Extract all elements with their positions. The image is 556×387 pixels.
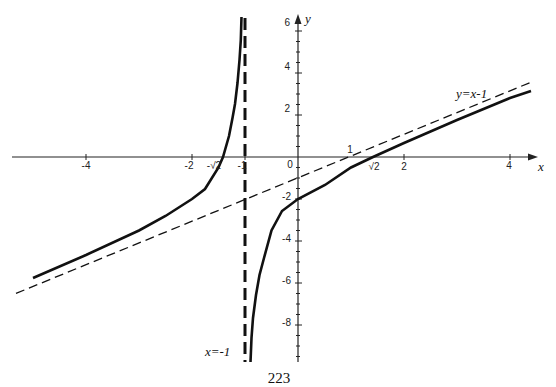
oblique-asymptote-label: y=x-1 bbox=[454, 86, 487, 101]
y-tick-label: 2 bbox=[284, 103, 290, 114]
y-tick-label: -2 bbox=[282, 191, 291, 202]
x-axis-label: x bbox=[537, 159, 544, 174]
y-tick-label: 6 bbox=[284, 17, 290, 28]
x-tick-label: √2 bbox=[368, 161, 379, 172]
y-axis-label: y bbox=[303, 11, 311, 26]
y-tick-label: -6 bbox=[282, 275, 291, 286]
x-tick-label: -1 bbox=[238, 160, 247, 171]
curve-left-branch bbox=[33, 17, 242, 278]
y-tick-label: -8 bbox=[282, 317, 291, 328]
curve-right-branch bbox=[251, 91, 532, 362]
x-tick-label: -4 bbox=[82, 160, 91, 171]
oblique-asymptote-line bbox=[16, 81, 533, 293]
function-graph: -4 -2 -√2 -1 0 1 √2 2 4 6 4 2 -2 -4 -6 -… bbox=[0, 0, 556, 387]
x-tick-label: 0 bbox=[287, 159, 293, 170]
x-axis-arrow-icon bbox=[528, 154, 538, 161]
y-tick-label: 4 bbox=[284, 61, 290, 72]
x-tick-label: 2 bbox=[401, 161, 407, 172]
x-tick-label: -2 bbox=[185, 160, 194, 171]
vertical-asymptote-label: x=-1 bbox=[204, 344, 230, 359]
page-number: 223 bbox=[268, 370, 291, 386]
x-tick-label: 1 bbox=[347, 144, 353, 155]
y-tick-label: -4 bbox=[282, 233, 291, 244]
x-tick-label: -√2 bbox=[207, 160, 222, 171]
x-tick-label: 4 bbox=[506, 160, 512, 171]
y-axis-arrow-icon bbox=[295, 14, 302, 24]
